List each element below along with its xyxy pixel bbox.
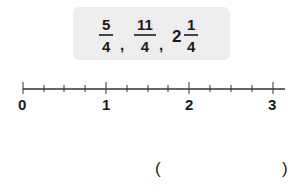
tick-label-1: 1 xyxy=(102,96,110,113)
tick-label-2: 2 xyxy=(185,96,193,113)
tick-label-0: 0 xyxy=(18,96,26,113)
tick-label-3: 3 xyxy=(268,96,276,113)
answer-close-paren: ) xyxy=(282,159,288,179)
answer-open-paren: ( xyxy=(155,159,161,179)
answer-blank[interactable] xyxy=(165,159,275,179)
